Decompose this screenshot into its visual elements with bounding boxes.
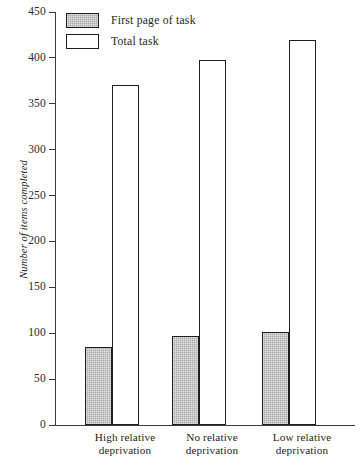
bar-hollow-0 — [112, 85, 139, 425]
y-tick-label: 350 — [0, 98, 46, 110]
y-tick-label: 450 — [0, 6, 46, 18]
bar-shaded-2 — [262, 332, 289, 425]
y-tick-label: 100 — [0, 327, 46, 339]
category-label-line1: Low relative — [273, 431, 332, 443]
y-tick-mark — [49, 241, 55, 242]
y-tick-mark — [49, 425, 55, 426]
category-label-line1: High relative — [95, 431, 156, 443]
legend-label-first-page: First page of task — [111, 13, 196, 28]
y-tick-mark — [49, 103, 55, 104]
legend-label-total-task: Total task — [111, 34, 159, 49]
legend-swatch-hollow-icon — [66, 34, 99, 49]
y-tick-label: 400 — [0, 52, 46, 64]
y-tick-mark — [49, 57, 55, 58]
bar-shaded-1 — [172, 336, 199, 425]
y-tick-label: 50 — [0, 373, 46, 385]
y-tick-mark — [49, 12, 55, 13]
bar-chart: 450400350300250200150100500 Number of it… — [0, 0, 362, 466]
y-tick-label: 0 — [0, 419, 46, 431]
y-axis-line — [55, 12, 56, 425]
y-tick-mark — [49, 333, 55, 334]
bar-shaded-0 — [85, 347, 112, 425]
category-label-line2: deprivation — [247, 444, 357, 457]
category-label-2: Low relativedeprivation — [247, 431, 357, 458]
y-tick-mark — [49, 287, 55, 288]
legend-swatch-shaded-icon — [66, 13, 99, 28]
y-tick-mark — [49, 379, 55, 380]
category-label-line1: No relative — [186, 431, 238, 443]
y-tick-mark — [49, 195, 55, 196]
y-axis-title: Number of items completed — [18, 135, 29, 305]
y-tick-mark — [49, 149, 55, 150]
bar-hollow-1 — [199, 60, 226, 425]
bar-hollow-2 — [289, 40, 316, 425]
